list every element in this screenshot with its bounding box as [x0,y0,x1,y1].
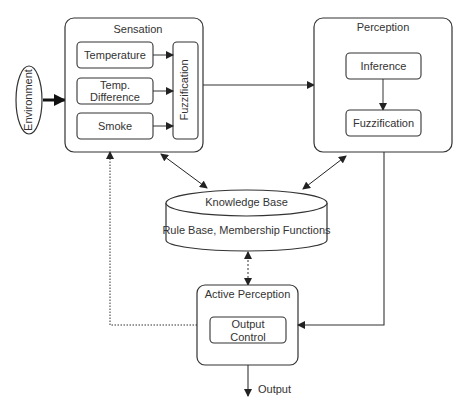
environment-node: Environment [16,66,42,134]
environment-label: Environment [22,69,34,131]
output-label: Output [258,383,291,395]
output-control-label-line2: Control [230,331,265,343]
diagram-canvas: Environment Sensation Temperature Temp. … [0,0,468,410]
temperature-label: Temperature [84,49,146,61]
knowledge-base-subtitle: Rule Base, Membership Functions [162,224,331,236]
perception-kb-bidirectional-arrow [303,156,346,189]
active-perception-title: Active Perception [205,288,291,300]
perception-title: Perception [357,21,410,33]
sensation-fuzzification-label: Fuzzification [178,59,190,120]
perception-block: Perception Inference Fuzzification [314,18,452,152]
sensation-block: Sensation Temperature Temp. Difference S… [65,18,203,152]
sensation-kb-bidirectional-arrow [161,154,207,188]
perception-fuzzification-label: Fuzzification [353,117,414,129]
knowledge-base-cylinder: Knowledge Base Rule Base, Membership Fun… [162,190,331,251]
temp-difference-label-line1: Temp. [100,79,130,91]
active-perception-block: Active Perception Output Control [197,285,298,365]
temp-difference-label-line2: Difference [90,91,140,103]
output-control-label-line1: Output [231,318,264,330]
sensation-title: Sensation [114,23,163,35]
smoke-label: Smoke [98,120,132,132]
inference-label: Inference [361,60,407,72]
knowledge-base-title: Knowledge Base [205,196,288,208]
